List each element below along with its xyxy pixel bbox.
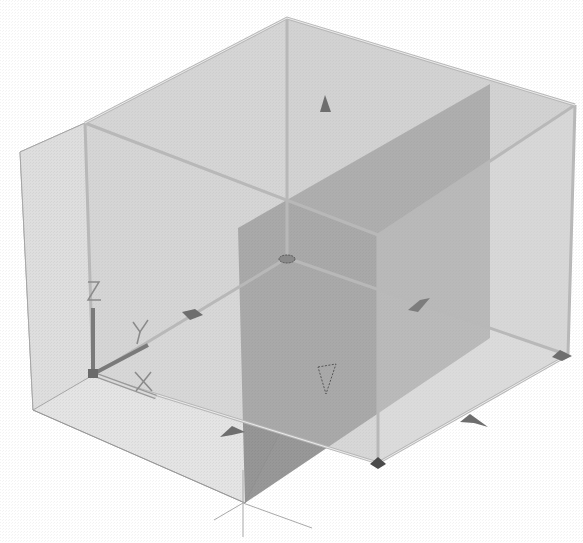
3d-scene[interactable] (0, 0, 583, 543)
back-bottom-grip (279, 255, 295, 263)
3d-viewport[interactable]: Z Y X (0, 0, 583, 543)
